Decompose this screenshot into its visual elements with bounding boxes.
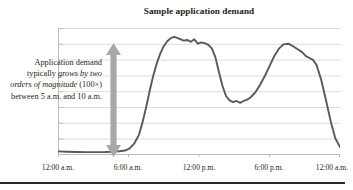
annotation-line-6: 10 a.m. [77,92,102,101]
annotation-line-1: Application demand [34,58,102,67]
annotation-line-2-plain: typically [27,69,58,78]
bottom-horizontal-rule [0,182,345,184]
x-tick-label-2: 12:00 p.m. [168,163,230,172]
x-axis-tick-labels: 12:00 a.m. 6:00 a.m. 12:00 p.m. 6:00 p.m… [0,163,345,177]
demand-growth-annotation: Application demand typically grows by tw… [6,57,102,102]
annotation-line-5: between 5 a.m. and [11,92,75,101]
vertical-double-arrow-icon [105,42,122,158]
x-tick-label-1: 6:00 a.m. [97,163,159,172]
x-tick-label-3: 6:00 p.m. [238,163,300,172]
x-tick-label-4: 12:00 a.m. [301,163,353,172]
x-axis-spine [58,155,340,158]
x-tick-label-0: 12:00 a.m. [27,163,89,172]
chart-title: Sample application demand [58,6,340,16]
annotation-multiplier: (100×) [77,80,102,89]
annotation-emphasis-1: grows by [58,69,88,78]
annotation-emphasis-3: magnitude [42,80,77,89]
